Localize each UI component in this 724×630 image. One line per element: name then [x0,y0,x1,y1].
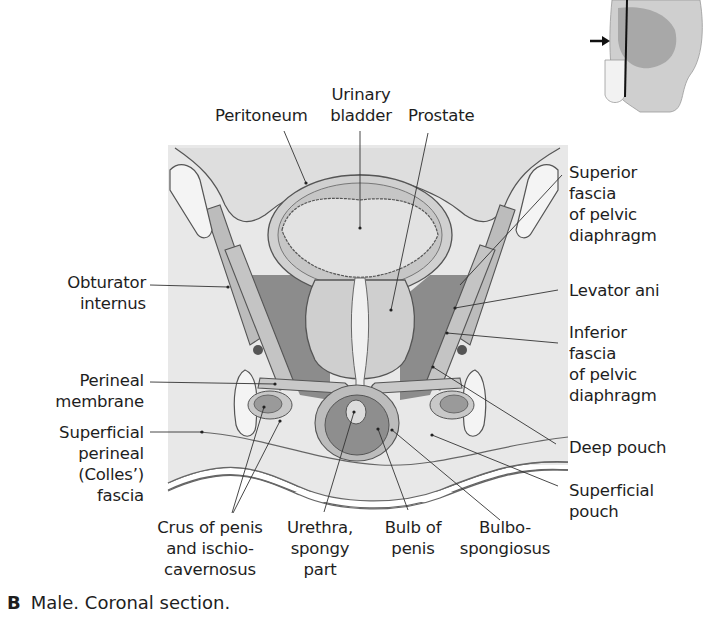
label-obturator-internus: Obturator internus [40,272,146,314]
label-deep-pouch: Deep pouch [569,437,666,458]
label-peritoneum: Peritoneum [215,105,308,126]
label-urethra-spongy-part: Urethra, spongy part [282,517,358,580]
label-inferior-fascia: Inferior fascia of pelvic diaphragm [569,322,657,406]
label-levator-ani: Levator ani [569,280,659,301]
label-superficial-pouch: Superficial pouch [569,480,654,522]
label-crus-of-penis: Crus of penis and ischio- cavernosus [150,517,270,580]
caption-text: Male. Coronal section. [31,592,230,613]
orientation-inset [590,0,702,112]
caption-letter: B [7,592,21,613]
label-prostate: Prostate [408,105,474,126]
label-superior-fascia: Superior fascia of pelvic diaphragm [569,162,657,246]
label-bulb-of-penis: Bulb of penis [378,517,448,559]
label-superficial-perineal-fascia: Superficial perineal (Colles’) fascia [30,422,144,506]
figure-caption: BMale. Coronal section. [7,592,230,613]
label-perineal-membrane: Perineal membrane [30,370,144,412]
label-bulbospongiosus: Bulbo- spongiosus [455,517,555,559]
label-urinary-bladder: Urinary bladder [326,84,396,126]
